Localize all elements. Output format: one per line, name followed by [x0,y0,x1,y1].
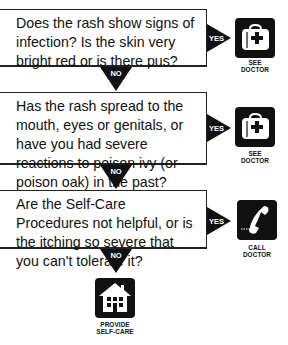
svg-text:YES: YES [209,34,224,43]
svg-text:NO: NO [110,69,121,78]
no-arrow-2: NO [100,165,132,189]
see-doctor-icon-2 [235,107,275,147]
label-line-1: CALL [232,244,282,251]
call-doctor-label: CALL DOCTOR [232,244,282,258]
question-box-1: Does the rash show signs of infection? I… [0,9,207,67]
svg-text:NO: NO [110,167,121,176]
call-doctor-icon [237,200,277,240]
yes-arrow-2: YES [207,114,231,142]
no-arrow-3: NO [100,249,132,273]
svg-text:YES: YES [209,217,224,226]
see-doctor-label-2: SEE DOCTOR [230,150,280,164]
question-box-2: Has the rash spread to the mouth, eyes o… [0,92,207,165]
label-line-1: SEE [230,150,280,157]
no-arrow-1: NO [100,67,132,91]
label-line-2: DOCTOR [232,251,282,258]
see-doctor-icon-1 [235,18,275,58]
svg-text:YES: YES [209,124,224,133]
yes-arrow-1: YES [207,24,231,52]
provide-self-care-label: PROVIDE SELF-CARE [90,321,140,335]
phone-icon [237,200,277,240]
doctor-bag-icon [235,107,275,147]
doctor-bag-icon [235,18,275,58]
label-line-1: PROVIDE [90,321,140,328]
question-box-3: Are the Self-Care Procedures not helpful… [0,190,207,249]
svg-text:NO: NO [110,251,121,260]
provide-self-care-icon [95,278,135,318]
label-line-2: DOCTOR [230,66,280,73]
label-line-2: DOCTOR [230,157,280,164]
yes-arrow-3: YES [207,207,231,235]
label-line-1: SEE [230,59,280,66]
question-text-1: Does the rash show signs of infection? I… [16,15,194,69]
label-line-2: SELF-CARE [90,328,140,335]
see-doctor-label-1: SEE DOCTOR [230,59,280,73]
house-icon [95,278,135,318]
